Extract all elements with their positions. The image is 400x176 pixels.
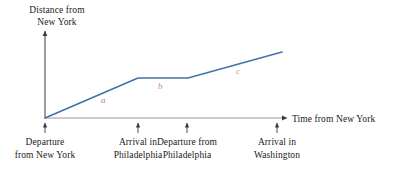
distance-time-polyline: [45, 52, 282, 118]
x-axis-title: Time from New York: [292, 113, 375, 125]
y-axis-title-line2: New York: [37, 17, 76, 27]
travel-distance-time-figure: Distance from New York Time from New Yor…: [0, 0, 400, 176]
y-axis-title-line1: Distance from: [29, 5, 84, 15]
segment-label-a: a: [101, 95, 106, 105]
segment-label-b: b: [158, 81, 163, 91]
y-axis-title: Distance from New York: [14, 4, 100, 28]
tick-label-line1: Arrival in: [222, 136, 332, 149]
tick-label-line2: Washington: [222, 149, 332, 162]
tick-label-arrival-washington: Arrival in Washington: [222, 136, 332, 161]
segment-label-c: c: [236, 66, 240, 76]
